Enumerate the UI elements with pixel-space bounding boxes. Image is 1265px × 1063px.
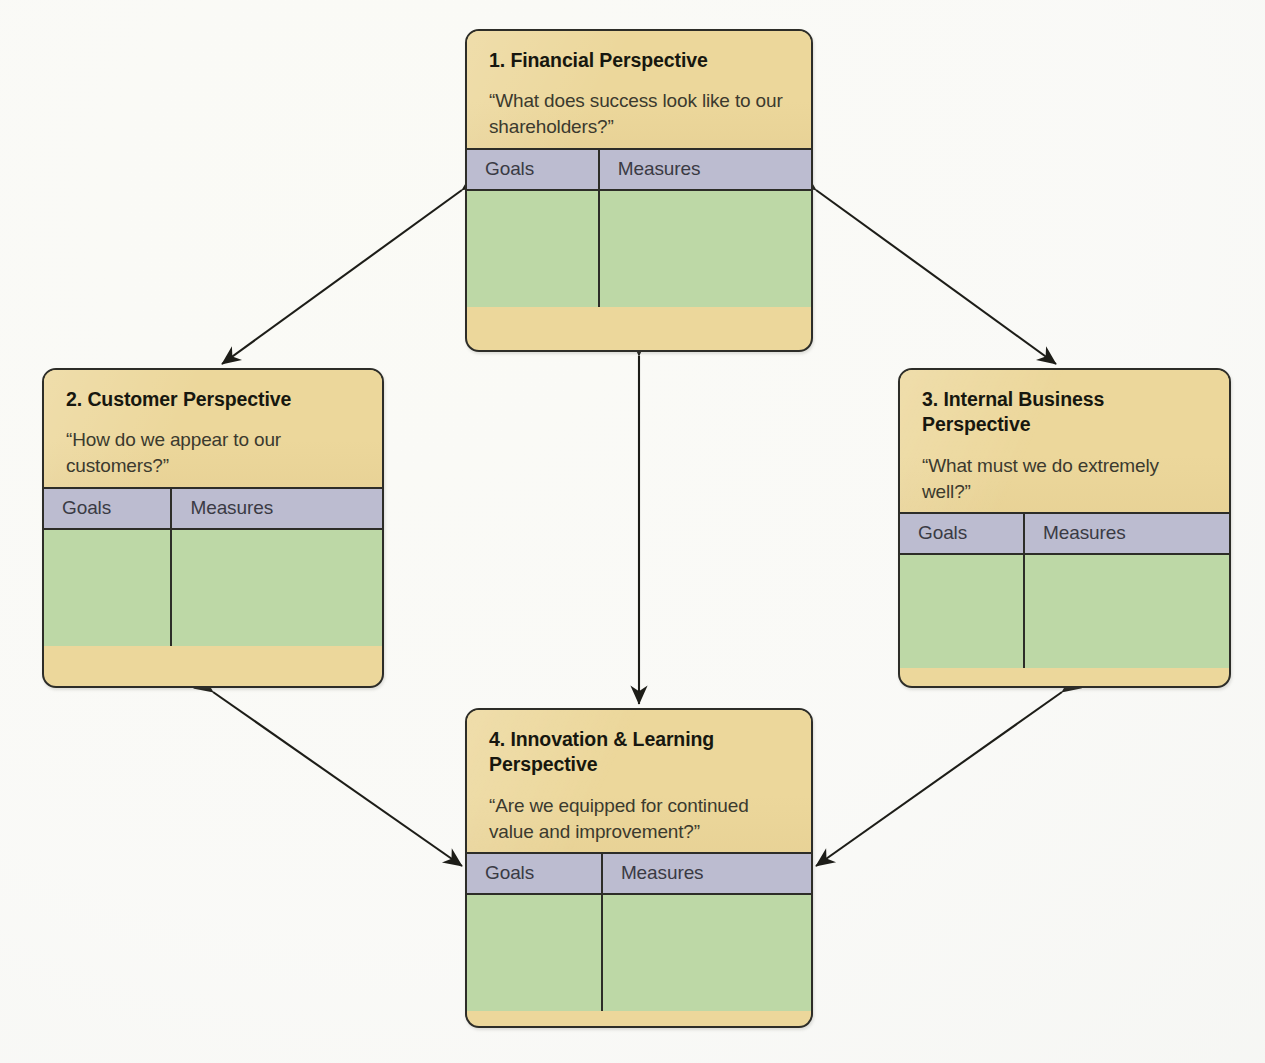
scorecard-body-row — [44, 530, 382, 646]
connector-financial-customer — [222, 190, 462, 364]
column-header-goals: Goals — [44, 489, 172, 528]
perspective-card-innovation-learning[interactable]: 4. Innovation & Learning Perspective “Ar… — [465, 708, 813, 1028]
diagram-canvas: 2 Customer --> 3 Internal Business --> 4… — [0, 0, 1265, 1063]
cell-measures[interactable] — [1025, 555, 1229, 668]
cell-measures[interactable] — [600, 191, 811, 307]
card-question-financial: “What does success look like to our shar… — [489, 88, 791, 140]
perspective-card-customer[interactable]: 2. Customer Perspective “How do we appea… — [42, 368, 384, 688]
perspective-card-internal-business[interactable]: 3. Internal Business Perspective “What m… — [898, 368, 1231, 688]
card-question-customer: “How do we appear to our customers?” — [66, 427, 362, 479]
scorecard-header-row: Goals Measures — [467, 150, 811, 191]
column-header-goals: Goals — [467, 854, 603, 893]
scorecard-header-row: Goals Measures — [467, 854, 811, 895]
scorecard-body-row — [900, 555, 1229, 668]
cell-measures[interactable] — [603, 895, 811, 1011]
card-title-innovation-learning: 4. Innovation & Learning Perspective — [489, 727, 791, 778]
column-header-goals: Goals — [900, 514, 1025, 553]
scorecard-header-row: Goals Measures — [44, 489, 382, 530]
perspective-card-financial[interactable]: 1. Financial Perspective “What does succ… — [465, 29, 813, 352]
connector-financial-internal — [816, 190, 1056, 364]
cell-goals[interactable] — [467, 895, 603, 1011]
cell-measures[interactable] — [172, 530, 382, 646]
column-header-measures: Measures — [600, 150, 811, 189]
scorecard-table-innovation-learning: Goals Measures — [467, 852, 811, 1011]
scorecard-table-internal-business: Goals Measures — [900, 512, 1229, 668]
card-header-financial: 1. Financial Perspective “What does succ… — [467, 31, 811, 148]
column-header-measures: Measures — [603, 854, 811, 893]
card-header-internal-business: 3. Internal Business Perspective “What m… — [900, 370, 1229, 512]
card-question-internal-business: “What must we do extremely well?” — [922, 453, 1209, 505]
card-header-customer: 2. Customer Perspective “How do we appea… — [44, 370, 382, 487]
scorecard-body-row — [467, 895, 811, 1011]
column-header-measures: Measures — [172, 489, 382, 528]
connector-customer-innovation — [213, 692, 462, 866]
cell-goals[interactable] — [900, 555, 1025, 668]
card-title-financial: 1. Financial Perspective — [489, 48, 791, 73]
card-header-innovation-learning: 4. Innovation & Learning Perspective “Ar… — [467, 710, 811, 852]
column-header-measures: Measures — [1025, 514, 1229, 553]
scorecard-table-financial: Goals Measures — [467, 148, 811, 307]
cell-goals[interactable] — [467, 191, 600, 307]
card-title-internal-business: 3. Internal Business Perspective — [922, 387, 1209, 438]
cell-goals[interactable] — [44, 530, 172, 646]
column-header-goals: Goals — [467, 150, 600, 189]
scorecard-table-customer: Goals Measures — [44, 487, 382, 646]
card-question-innovation-learning: “Are we equipped for continued value and… — [489, 793, 791, 845]
scorecard-header-row: Goals Measures — [900, 514, 1229, 555]
scorecard-body-row — [467, 191, 811, 307]
connector-internal-innovation — [816, 692, 1062, 866]
card-title-customer: 2. Customer Perspective — [66, 387, 362, 412]
